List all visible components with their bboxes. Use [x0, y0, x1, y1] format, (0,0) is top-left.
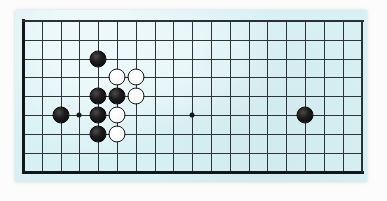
grid-line-horizontal: [23, 96, 361, 97]
grid-line-horizontal: [23, 77, 361, 78]
hoshi-center: [190, 113, 195, 118]
board-border-left: [22, 19, 25, 174]
black-stone-cluster-c[interactable]: [90, 125, 107, 142]
grid-line-horizontal: [23, 59, 361, 60]
white-stone-cluster-e[interactable]: [109, 125, 126, 142]
white-stone-cluster-a[interactable]: [109, 69, 126, 86]
hoshi-left: [77, 113, 82, 118]
black-stone-cluster-d[interactable]: [109, 88, 126, 105]
board-grid: [15, 10, 367, 182]
black-stone-right[interactable]: [297, 107, 314, 124]
black-stone-upper[interactable]: [90, 50, 107, 67]
white-stone-cluster-c[interactable]: [127, 88, 144, 105]
board-border-right: [361, 20, 363, 173]
black-stone-cluster-b[interactable]: [90, 107, 107, 124]
grid-line-horizontal: [23, 153, 361, 154]
go-board[interactable]: [15, 10, 367, 182]
white-stone-cluster-b[interactable]: [127, 69, 144, 86]
grid-line-horizontal: [23, 134, 361, 135]
board-border-top: [22, 20, 364, 22]
board-border-bottom: [22, 171, 364, 174]
black-stone-left-edge[interactable]: [52, 107, 69, 124]
black-stone-cluster-a[interactable]: [90, 88, 107, 105]
grid-line-horizontal: [23, 40, 361, 41]
screenshot-root: [0, 0, 387, 201]
white-stone-cluster-d[interactable]: [109, 107, 126, 124]
